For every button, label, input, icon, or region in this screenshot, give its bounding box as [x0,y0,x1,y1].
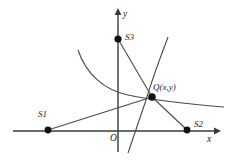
point-q-dot[interactable] [148,93,156,101]
x-axis-label: x [207,135,211,145]
ray-q-to-s3 [118,39,152,97]
y-axis-label: y [123,10,127,20]
point-s2-label: S2 [194,120,203,129]
origin-label: O [110,134,117,144]
point-s2-dot[interactable] [184,127,191,134]
point-q-label: Q(x,y) [153,83,176,92]
point-s1-dot[interactable] [45,127,52,134]
geometry-figure: y x O S1 S2 S3 Q(x,y) [0,0,226,161]
curve-hyperbola-steep [128,37,168,153]
point-s1-label: S1 [38,110,47,119]
point-s3-label: S3 [125,33,134,42]
ray-q-to-s1 [48,97,152,130]
y-axis-arrowhead [115,8,122,15]
x-axis-arrowhead [214,127,221,134]
point-s3-dot[interactable] [114,35,121,42]
